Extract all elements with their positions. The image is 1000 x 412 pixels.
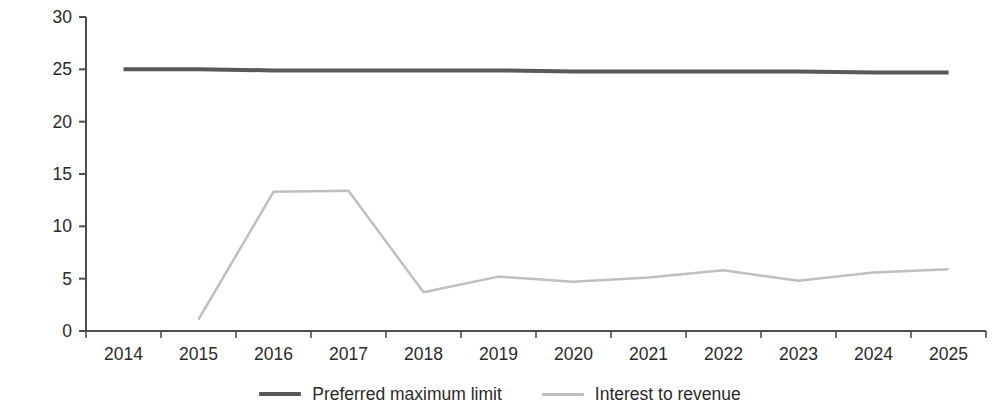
series-line-interest-to-revenue [199,191,949,320]
x-axis-tick-label: 2018 [386,340,461,368]
x-axis-tick-label: 2020 [536,340,611,368]
chart-container: Debt service to revenue, % 051015202530 … [0,0,1000,412]
legend-item-preferred-maximum-limit: Preferred maximum limit [259,384,502,404]
x-axis-ticks [86,331,986,338]
x-axis-tick-label: 2015 [161,340,236,368]
legend-swatch-icon [542,393,584,396]
x-axis-tick-label: 2016 [236,340,311,368]
legend-item-interest-to-revenue: Interest to revenue [542,384,741,404]
x-axis-tick-label: 2023 [761,340,836,368]
y-axis-ticks [79,17,86,331]
x-axis-tick-label: 2021 [611,340,686,368]
x-axis-tick-label: 2019 [461,340,536,368]
x-axis-tick-label: 2025 [911,340,986,368]
legend-label-interest-to-revenue: Interest to revenue [595,384,741,404]
legend-swatch-icon [259,392,301,396]
y-axis-tick-label: 30 [53,7,73,27]
chart-legend: Preferred maximum limit Interest to reve… [0,379,1000,409]
x-axis-tick-labels: 2014201520162017201820192020202120222023… [86,340,986,368]
y-axis-tick-label: 25 [53,59,72,79]
y-axis-tick-labels: 051015202530 [53,7,73,341]
y-axis-tick-label: 10 [53,216,73,236]
x-axis-tick-label: 2024 [836,340,911,368]
legend-label-preferred-maximum-limit: Preferred maximum limit [312,384,502,404]
x-axis-tick-label: 2017 [311,340,386,368]
x-axis-tick-label: 2014 [86,340,161,368]
y-axis-tick-label: 5 [62,269,72,289]
series-line-preferred-maximum-limit [124,69,949,72]
y-axis-tick-label: 0 [62,321,72,341]
x-axis-tick-label: 2022 [686,340,761,368]
y-axis-tick-label: 20 [53,112,73,132]
y-axis-tick-label: 15 [53,164,72,184]
